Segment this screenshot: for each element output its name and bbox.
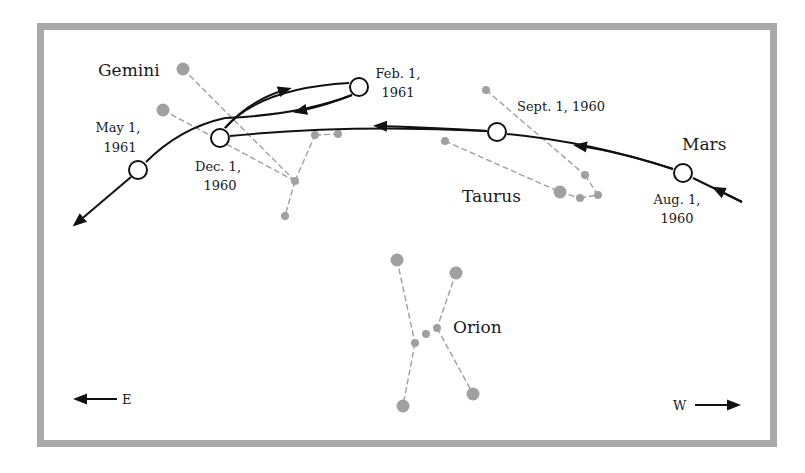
date-label-may-1961-line2: 1961 (103, 140, 136, 155)
star-icon (157, 104, 170, 117)
star-icon (594, 191, 602, 199)
star-icon (482, 86, 490, 94)
planet-label-mars: Mars (682, 134, 726, 154)
star-icon (397, 400, 410, 413)
date-label-dec-1960-line1: Dec. 1, (195, 159, 241, 174)
date-marker-dec-1960 (211, 129, 229, 147)
star-icon (311, 131, 319, 139)
date-label-sept-1960: Sept. 1, 1960 (517, 99, 605, 114)
constellation-label-orion: Orion (453, 317, 502, 337)
east-indicator: E (80, 392, 132, 407)
date-label-feb-1961-line2: 1961 (381, 85, 414, 100)
star-icon (411, 339, 419, 347)
star-icon (334, 130, 342, 138)
star-icon (422, 330, 430, 338)
star-icon (177, 63, 190, 76)
star-icon (450, 267, 463, 280)
date-marker-sept-1960 (488, 123, 506, 141)
star-icon (391, 254, 404, 267)
constellation-label-taurus: Taurus (462, 186, 521, 206)
star-icon (441, 137, 449, 145)
constellation-lines (163, 69, 598, 406)
date-marker-aug-1960 (674, 164, 692, 182)
star-icon (433, 324, 441, 332)
mars-retrograde-diagram: Gemini Taurus Orion Mars Aug. 1, 1960 Se… (0, 0, 805, 473)
star-icon (581, 171, 589, 179)
star-icon (281, 212, 289, 220)
date-label-aug-1960-line2: 1960 (660, 211, 693, 226)
west-indicator: W (673, 398, 734, 413)
mars-path (78, 83, 742, 222)
date-marker-may-1961 (129, 161, 147, 179)
star-icon (467, 388, 480, 401)
direction-label-east: E (122, 392, 132, 407)
stars (157, 63, 603, 413)
direction-label-west: W (673, 398, 687, 413)
date-marker-feb-1961 (350, 78, 368, 96)
date-label-dec-1960-line2: 1960 (203, 178, 236, 193)
star-icon (291, 177, 299, 185)
constellation-label-gemini: Gemini (98, 60, 160, 80)
date-label-aug-1960-line1: Aug. 1, (653, 192, 701, 207)
star-icon (554, 186, 567, 199)
date-label-feb-1961-line1: Feb. 1, (376, 66, 421, 81)
star-icon (576, 194, 584, 202)
date-label-may-1961-line1: May 1, (96, 120, 141, 135)
